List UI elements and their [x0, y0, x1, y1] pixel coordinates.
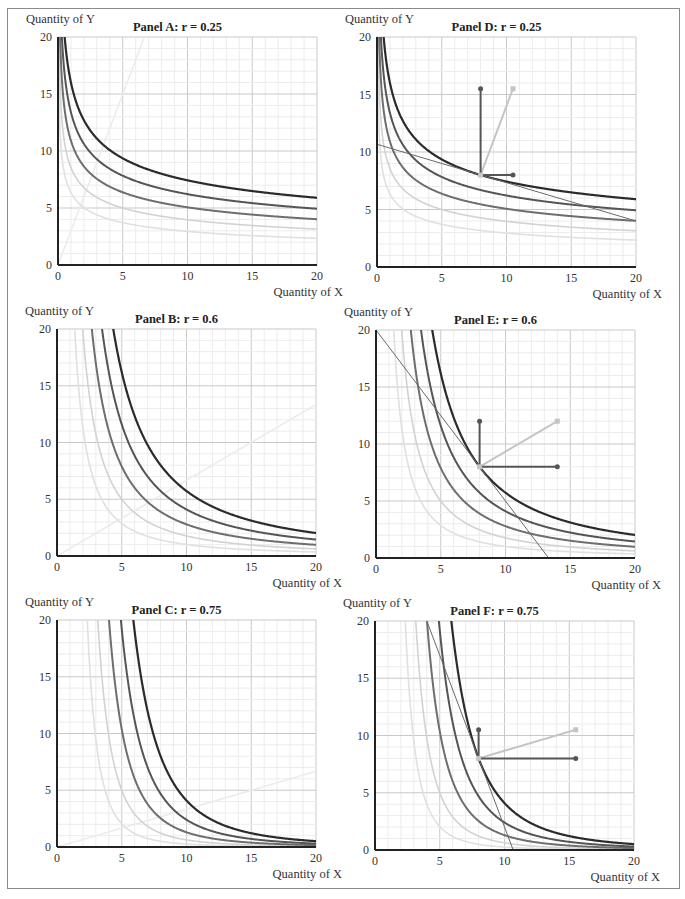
y-tick-label: 5	[45, 783, 51, 797]
y-tick-label: 0	[46, 258, 52, 272]
panel-title: Panel C: r = 0.75	[132, 603, 222, 617]
x-tick-label: 5	[119, 851, 125, 865]
panel-title: Panel E: r = 0.6	[454, 313, 537, 327]
y-tick-label: 20	[357, 614, 369, 628]
x-tick-label: 20	[628, 854, 640, 868]
y-axis-label: Quantity of Y	[343, 596, 412, 610]
y-tick-label: 0	[45, 840, 51, 854]
x-axis-label: Quantity of X	[273, 576, 342, 590]
x-tick-label: 15	[245, 560, 257, 574]
gradient-arrow	[479, 730, 576, 759]
panel-title: Panel B: r = 0.6	[135, 312, 218, 326]
panel-D: 0510152005101520Panel D: r = 0.25Quantit…	[345, 0, 662, 301]
panel-E: 0510152005101520Panel E: r = 0.6Quantity…	[344, 284, 661, 592]
x-tick-label: 20	[310, 560, 322, 574]
x-tick-label: 15	[564, 562, 576, 576]
panel-F: 0510152005101520Panel F: r = 0.75Quantit…	[343, 575, 660, 884]
x-tick-label: 15	[246, 269, 258, 283]
x-tick-label: 10	[501, 271, 513, 285]
x-axis-label: Quantity of X	[592, 578, 661, 592]
figure-canvas: 0510152005101520Panel A: r = 0.25Quantit…	[0, 0, 685, 899]
mu-y-arrow-marker	[477, 419, 482, 424]
y-tick-label: 0	[365, 260, 371, 274]
y-tick-label: 5	[364, 494, 370, 508]
panel-title: Panel D: r = 0.25	[452, 20, 542, 34]
x-tick-label: 10	[181, 851, 193, 865]
y-tick-label: 10	[39, 436, 51, 450]
y-tick-label: 15	[40, 87, 52, 101]
x-tick-label: 15	[245, 851, 257, 865]
y-axis-label: Quantity of Y	[26, 12, 95, 26]
y-tick-label: 10	[357, 729, 369, 743]
y-tick-label: 0	[364, 551, 370, 565]
y-tick-label: 20	[39, 322, 51, 336]
y-tick-label: 10	[40, 144, 52, 158]
x-tick-label: 5	[120, 269, 126, 283]
y-tick-label: 0	[363, 843, 369, 857]
panel-A: 0510152005101520Panel A: r = 0.25Quantit…	[26, 0, 343, 299]
panel-title: Panel A: r = 0.25	[133, 20, 222, 34]
x-tick-label: 0	[373, 562, 379, 576]
tangent-point	[477, 464, 482, 469]
x-tick-label: 5	[437, 854, 443, 868]
y-axis-label: Quantity of Y	[25, 595, 94, 609]
x-axis-label: Quantity of X	[591, 870, 660, 884]
x-tick-label: 5	[438, 562, 444, 576]
y-tick-label: 15	[358, 380, 370, 394]
y-tick-label: 5	[46, 201, 52, 215]
x-tick-label: 0	[372, 854, 378, 868]
panel-B: 0510152005101520Panel B: r = 0.6Quantity…	[25, 284, 342, 590]
y-tick-label: 15	[357, 671, 369, 685]
mu-x-arrow-marker	[573, 756, 578, 761]
y-tick-label: 20	[40, 30, 52, 44]
mu-y-arrow-marker	[476, 727, 481, 732]
x-tick-label: 20	[630, 271, 642, 285]
y-tick-label: 20	[358, 323, 370, 337]
mu-x-arrow-marker	[555, 464, 560, 469]
x-axis-label: Quantity of X	[273, 867, 342, 881]
panel-title: Panel F: r = 0.75	[450, 604, 538, 618]
x-axis-label: Quantity of X	[593, 287, 662, 301]
y-tick-label: 5	[363, 786, 369, 800]
y-axis-label: Quantity of Y	[25, 304, 94, 318]
x-tick-label: 15	[563, 854, 575, 868]
x-tick-label: 10	[500, 562, 512, 576]
y-axis-label: Quantity of Y	[344, 305, 413, 319]
gradient-arrow-marker	[510, 86, 515, 91]
y-tick-label: 10	[358, 437, 370, 451]
x-tick-label: 5	[439, 271, 445, 285]
x-tick-label: 0	[54, 560, 60, 574]
y-tick-label: 15	[39, 670, 51, 684]
x-tick-label: 20	[310, 851, 322, 865]
x-tick-label: 15	[565, 271, 577, 285]
x-axis-label: Quantity of X	[274, 285, 343, 299]
y-tick-label: 10	[39, 727, 51, 741]
mu-y-arrow-marker	[478, 86, 483, 91]
y-tick-label: 20	[39, 613, 51, 627]
gradient-arrow	[481, 89, 513, 175]
x-tick-label: 0	[55, 269, 61, 283]
gradient-arrow-marker	[555, 419, 560, 424]
x-tick-label: 10	[499, 854, 511, 868]
x-tick-label: 0	[374, 271, 380, 285]
y-tick-label: 10	[359, 145, 371, 159]
x-tick-label: 20	[629, 562, 641, 576]
x-tick-label: 20	[311, 269, 323, 283]
tangent-point	[478, 173, 483, 178]
x-tick-label: 10	[182, 269, 194, 283]
tangent-point	[476, 756, 481, 761]
x-tick-label: 5	[119, 560, 125, 574]
y-axis-label: Quantity of Y	[345, 12, 414, 26]
y-tick-label: 20	[359, 30, 371, 44]
x-tick-label: 0	[54, 851, 60, 865]
y-tick-label: 0	[45, 549, 51, 563]
y-tick-label: 15	[39, 379, 51, 393]
y-tick-label: 15	[359, 88, 371, 102]
x-tick-label: 10	[181, 560, 193, 574]
y-tick-label: 5	[45, 492, 51, 506]
y-tick-label: 5	[365, 203, 371, 217]
mu-x-arrow-marker	[510, 173, 515, 178]
gradient-arrow-marker	[573, 727, 578, 732]
panel-C: 0510152005101520Panel C: r = 0.75Quantit…	[25, 575, 342, 881]
